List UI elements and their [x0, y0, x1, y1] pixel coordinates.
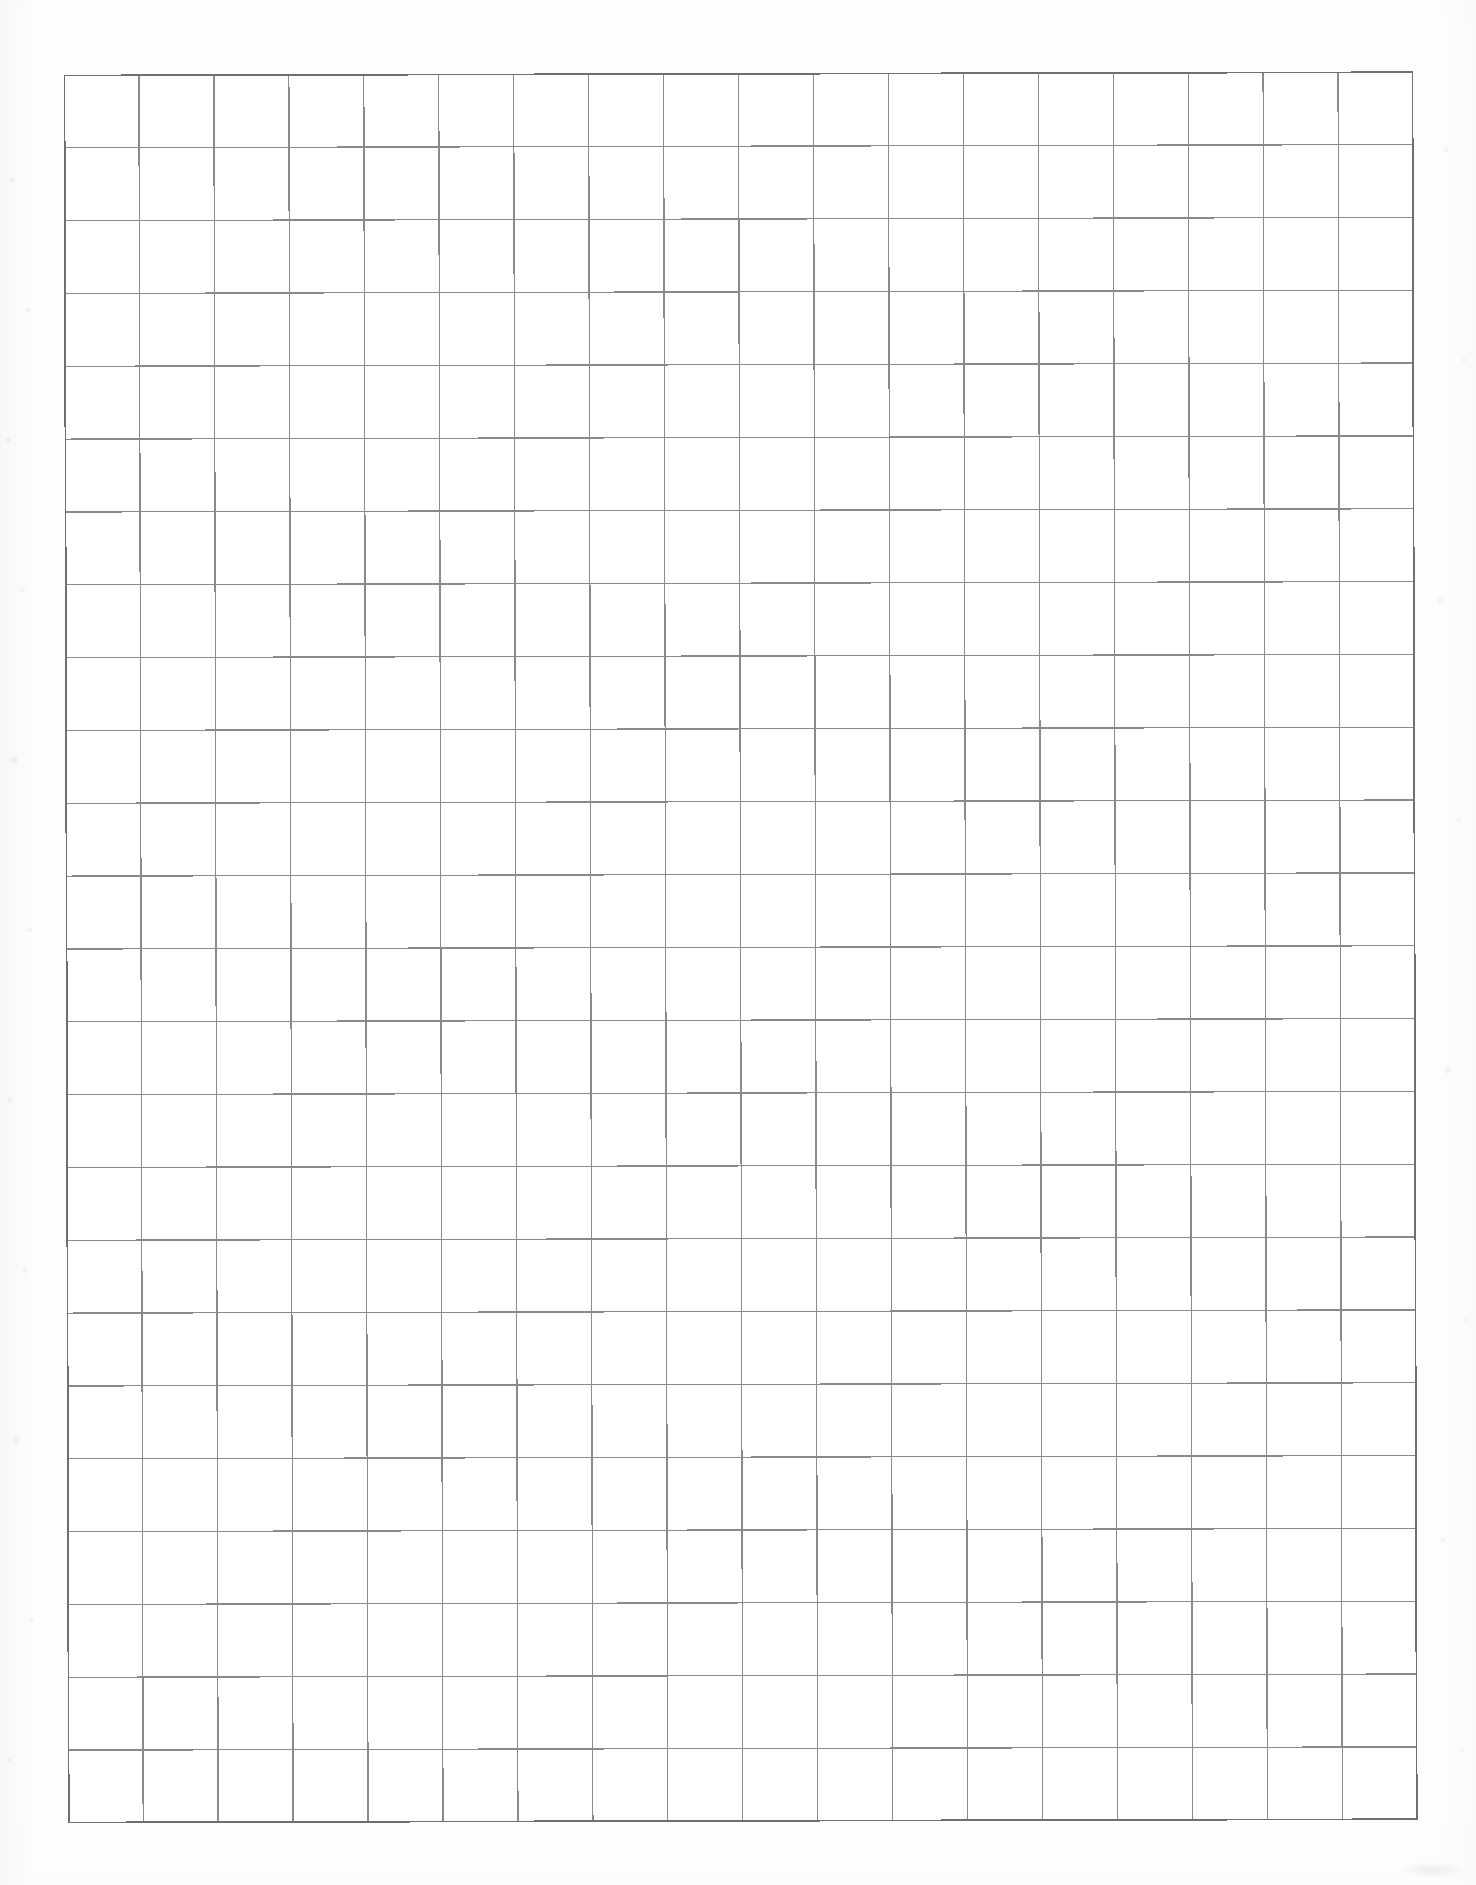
grid-paper-block	[64, 72, 1417, 1823]
scanner-noise-left-margin	[0, 120, 44, 1820]
scanner-noise-right-margin	[1426, 60, 1476, 1840]
scanned-page	[0, 0, 1476, 1885]
grid-svg	[64, 72, 1417, 1823]
scanner-smudge-bottom-right	[1400, 1862, 1466, 1878]
